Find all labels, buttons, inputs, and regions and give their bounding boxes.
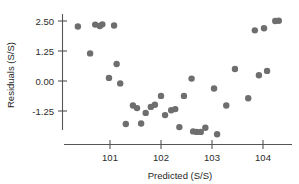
- y-tick-label: 1.25: [36, 46, 55, 57]
- data-point: [245, 95, 251, 101]
- data-point: [176, 124, 182, 130]
- data-point: [138, 120, 144, 126]
- data-point: [232, 66, 238, 72]
- data-point: [264, 68, 270, 74]
- data-point: [123, 121, 129, 127]
- data-point: [276, 18, 282, 24]
- x-tick-label: 103: [204, 152, 220, 163]
- data-point: [111, 22, 117, 28]
- data-point: [113, 61, 119, 67]
- x-tick-label: 101: [102, 152, 118, 163]
- x-axis-title: Predicted (S/S): [148, 170, 212, 181]
- data-point: [202, 125, 208, 131]
- data-point: [188, 75, 194, 81]
- data-point: [256, 72, 262, 78]
- data-point: [181, 93, 187, 99]
- y-tick-label: 2.50: [36, 16, 55, 27]
- data-point: [106, 75, 112, 81]
- data-point: [143, 110, 149, 116]
- data-point: [99, 21, 105, 27]
- data-point: [162, 112, 168, 118]
- x-tick-label: 102: [153, 152, 169, 163]
- y-tick-label: 0.00: [36, 76, 55, 87]
- data-point: [252, 27, 258, 33]
- data-point: [223, 102, 229, 108]
- data-point: [75, 23, 81, 29]
- data-point: [211, 85, 217, 91]
- data-point: [261, 25, 267, 31]
- chart-figure: 2.50 1.25 0.00 -1.25 101 102 103 104 Pre…: [0, 0, 299, 184]
- data-point: [152, 102, 158, 108]
- data-point: [134, 105, 140, 111]
- data-point: [214, 131, 220, 137]
- data-point: [158, 93, 164, 99]
- y-tick-label: -1.25: [32, 106, 54, 117]
- data-point: [117, 80, 123, 86]
- data-point: [87, 50, 93, 56]
- scatter-plot: 2.50 1.25 0.00 -1.25 101 102 103 104 Pre…: [0, 0, 299, 184]
- x-tick-label: 104: [255, 152, 271, 163]
- y-axis-title: Residuals (S/S): [5, 42, 16, 108]
- data-point: [172, 106, 178, 112]
